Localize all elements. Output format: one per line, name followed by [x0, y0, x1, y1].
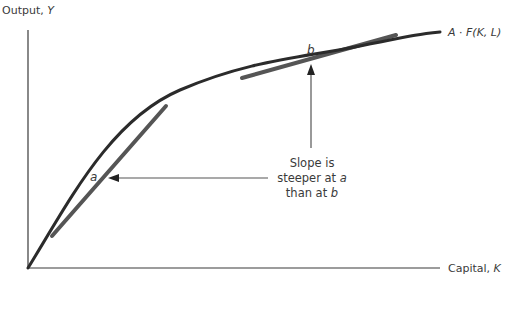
tangent-line-a	[52, 106, 166, 236]
arrowhead-b-icon	[307, 64, 315, 75]
annotation-line-3-var: b	[331, 186, 338, 200]
annotation-line-2-text: steeper at	[277, 171, 340, 185]
annotation-line-2-var: a	[340, 171, 347, 185]
x-axis-label: Capital, K	[448, 262, 501, 275]
annotation-line-3-text: than at	[286, 186, 331, 200]
annotation-line-1: Slope is	[262, 156, 362, 171]
curve-label-prefix: A	[448, 26, 456, 39]
point-a-label: a	[90, 171, 97, 184]
arrowhead-a-icon	[108, 174, 119, 182]
x-axis-variable: K	[494, 262, 501, 275]
point-b-label: b	[307, 44, 315, 57]
annotation-line-3: than at b	[262, 186, 362, 201]
y-axis-label-text: Output,	[2, 4, 47, 17]
curve-label: A · F(K, L)	[448, 26, 501, 39]
curve-label-dot: ·	[456, 26, 467, 39]
curve-label-function: F(K, L)	[466, 26, 501, 39]
y-axis-variable: Y	[47, 4, 54, 17]
production-function-curve	[28, 32, 440, 268]
tangent-line-b	[242, 35, 396, 78]
x-axis-label-text: Capital,	[448, 262, 494, 275]
y-axis-label: Output, Y	[2, 4, 54, 17]
production-function-diagram	[0, 0, 512, 314]
annotation-line-2: steeper at a	[262, 171, 362, 186]
slope-annotation: Slope is steeper at a than at b	[262, 156, 362, 201]
